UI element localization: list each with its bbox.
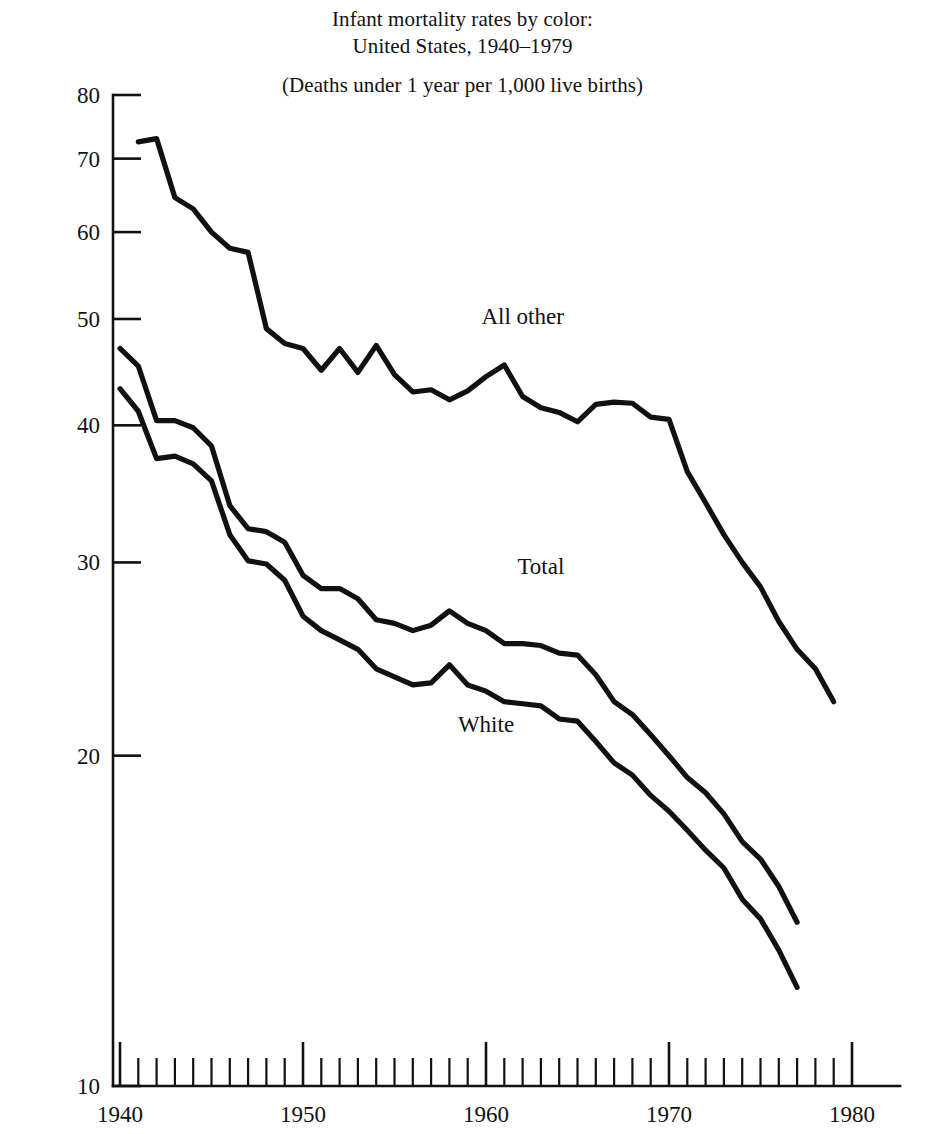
y-tick-label-80: 80: [77, 83, 100, 108]
y-tick-group: [113, 95, 141, 1086]
y-tick-label-40: 40: [77, 413, 100, 438]
infant-mortality-chart-figure: Infant mortality rates by color: United …: [0, 0, 925, 1134]
y-tick-label-20: 20: [77, 744, 100, 769]
series-line-all-other: [138, 139, 833, 702]
y-tick-label-group: 1020304050607080: [77, 83, 100, 1099]
series-label-white: White: [458, 712, 514, 737]
y-tick-label-70: 70: [77, 147, 100, 172]
series-annotation-group: All otherTotalWhite: [458, 304, 564, 738]
y-tick-label-30: 30: [77, 550, 100, 575]
chart-plot-area: 1020304050607080 19401950196019701980 Al…: [0, 0, 925, 1134]
series-label-all-other: All other: [481, 304, 564, 329]
x-tick-group: [120, 1042, 852, 1086]
y-tick-label-10: 10: [77, 1074, 100, 1099]
x-tick-label-group: 19401950196019701980: [97, 1102, 875, 1127]
x-tick-label-1940: 1940: [97, 1102, 143, 1127]
series-label-total: Total: [517, 554, 564, 579]
x-tick-label-1980: 1980: [829, 1102, 875, 1127]
x-tick-label-1950: 1950: [280, 1102, 326, 1127]
y-tick-label-50: 50: [77, 307, 100, 332]
y-tick-label-60: 60: [77, 220, 100, 245]
series-group: [120, 139, 834, 988]
y-axis: 1020304050607080: [77, 83, 141, 1099]
x-tick-label-1960: 1960: [463, 1102, 509, 1127]
x-axis: 19401950196019701980: [97, 1042, 900, 1127]
x-tick-label-1970: 1970: [646, 1102, 692, 1127]
